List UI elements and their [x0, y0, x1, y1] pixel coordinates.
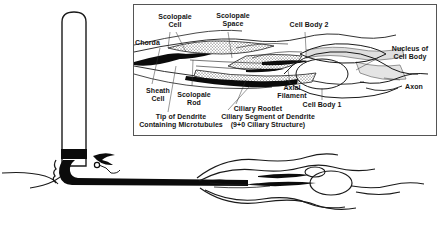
- label-axon: Axon: [398, 83, 430, 91]
- sensillum-figure: Chorda Scolopale Cell Scolopale Space Ce…: [0, 0, 447, 232]
- label-cell-body-2: Cell Body 2: [281, 21, 337, 29]
- label-axial-filament: Axial Filament: [270, 84, 314, 100]
- cuticle-outline-left: [2, 172, 58, 184]
- label-nucleus-of-cell-body: Nucleus of Cell Body: [381, 45, 439, 61]
- label-ciliary-segment: Ciliary Segment of Dendrite (9+0 Ciliary…: [213, 113, 323, 129]
- bristle-base: [61, 149, 87, 159]
- magnification-arrow: [93, 153, 120, 173]
- bristle-shaft: [62, 12, 86, 166]
- overview-nucleus: [310, 171, 352, 195]
- label-scolopale-space: Scolopale Space: [205, 12, 261, 28]
- label-ciliary-rootlet: Ciliary Rootlet: [228, 105, 288, 113]
- label-chorda: Chorda: [135, 39, 160, 47]
- label-cell-body-1: Cell Body 1: [294, 101, 350, 109]
- label-scolopale-rod: Scolopale Rod: [168, 91, 220, 107]
- label-scolopale-cell: Scolopale Cell: [148, 13, 202, 29]
